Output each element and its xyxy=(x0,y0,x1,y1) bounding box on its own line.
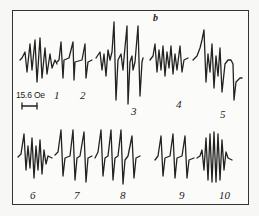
spectrum-8-trace xyxy=(95,130,140,184)
spectrum-9-trace xyxy=(155,134,194,178)
spectrum-7-trace xyxy=(55,130,92,182)
scale-bar xyxy=(22,103,37,109)
spectrum-label-7: 7 xyxy=(74,189,80,201)
spectrum-label-5: 5 xyxy=(220,108,226,120)
spectrum-2-trace xyxy=(57,42,92,80)
spectrum-1-trace xyxy=(20,38,57,82)
spectrum-6-trace xyxy=(18,134,52,178)
spectrum-label-6: 6 xyxy=(30,189,36,201)
panel-label: b xyxy=(153,12,158,23)
spectrum-label-10: 10 xyxy=(219,189,230,201)
spectrum-3-trace xyxy=(96,22,143,104)
spectrum-4-trace xyxy=(150,44,188,76)
spectrum-label-9: 9 xyxy=(179,189,185,201)
spectrum-label-8: 8 xyxy=(120,189,126,201)
spectrum-label-1: 1 xyxy=(54,89,60,101)
spectrum-5-trace xyxy=(193,30,242,100)
scale-bar-label: 15.6 Oe xyxy=(16,90,45,100)
spectrum-label-4: 4 xyxy=(176,98,182,110)
spectrum-10-trace xyxy=(197,132,232,182)
spectrum-label-3: 3 xyxy=(131,105,137,117)
spectrum-label-2: 2 xyxy=(80,89,86,101)
